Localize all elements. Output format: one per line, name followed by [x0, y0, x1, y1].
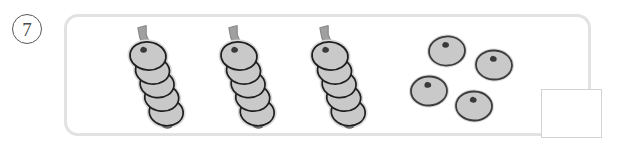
illustration-panel [64, 14, 591, 136]
item-number-label: 7 [22, 20, 32, 39]
answer-box[interactable] [541, 89, 602, 138]
item-number-badge: 7 [12, 14, 42, 44]
worksheet-item: 7 [0, 0, 622, 155]
